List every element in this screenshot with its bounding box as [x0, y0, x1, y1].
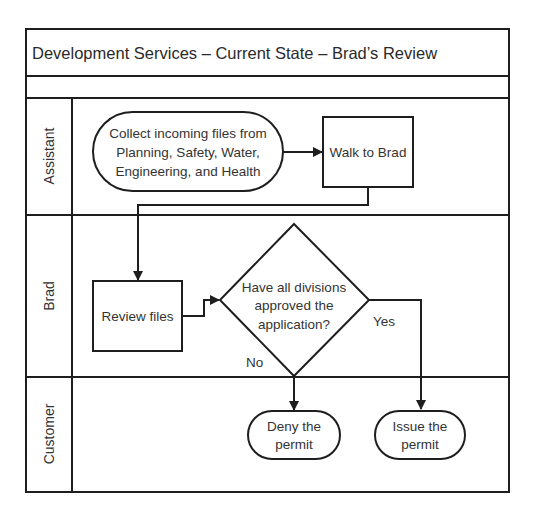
node-text-line: application? [258, 317, 330, 332]
node-text-line: permit [275, 437, 313, 452]
lane-label-brad: Brad [41, 281, 57, 311]
lane-label-assistant: Assistant [41, 127, 57, 184]
node-text-line: Review files [101, 309, 173, 324]
node-walk-to-brad: Walk to Brad [323, 117, 413, 187]
node-text-line: Have all divisions [242, 280, 347, 295]
node-text-line: permit [401, 437, 439, 452]
diagram-title: Development Services – Current State – B… [32, 44, 437, 62]
node-text-line: Planning, Safety, Water, [116, 145, 259, 160]
swimlane-diagram: Development Services – Current State – B… [0, 0, 533, 517]
node-text-line: Walk to Brad [330, 145, 407, 160]
edge-review-to-decision [182, 300, 219, 316]
node-review-files: Review files [93, 281, 182, 351]
node-text-line: Deny the [267, 419, 321, 434]
edge-label-no: No [246, 355, 263, 370]
node-text-line: Collect incoming files from [109, 126, 267, 141]
node-text-line: approved the [255, 298, 334, 313]
edge-label-yes: Yes [373, 314, 395, 329]
node-text-line: Issue the [393, 419, 448, 434]
node-collect-files: Collect incoming files from Planning, Sa… [93, 112, 283, 191]
node-deny-permit: Deny the permit [248, 411, 340, 459]
node-decision-approved: Have all divisions approved the applicat… [220, 224, 369, 376]
node-text-line: Engineering, and Health [116, 164, 261, 179]
node-issue-permit: Issue the permit [375, 411, 465, 459]
lane-label-customer: Customer [41, 403, 57, 464]
